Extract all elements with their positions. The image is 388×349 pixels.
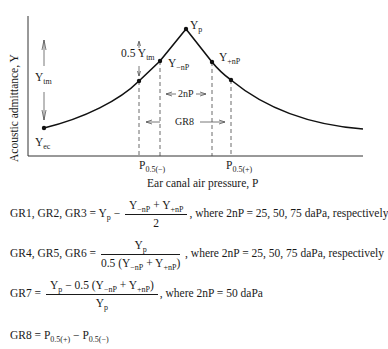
label-y-pos-np: Y+nP bbox=[219, 52, 240, 64]
label-ytm: Ytm bbox=[35, 72, 52, 84]
label-yec: Yec bbox=[35, 137, 50, 149]
label-p05-neg: P0.5(−) bbox=[139, 160, 165, 172]
curve-points bbox=[42, 27, 233, 130]
label-half-ytm: 0.5 Ytm bbox=[121, 48, 155, 60]
label-gr8: GR8 bbox=[175, 117, 194, 127]
equation-gr8: GR8 = P0.5(+) − P0.5(−) bbox=[10, 330, 109, 342]
x-axis-label: Ear canal air pressure, P bbox=[147, 178, 258, 190]
admittance-curve bbox=[44, 29, 363, 129]
y-axis-label: Acoustic admittance, Y bbox=[8, 53, 21, 162]
label-p05-pos: P0.5(+) bbox=[226, 160, 252, 172]
equation-gr7: GR7 = Yp − 0.5 (Y−nP + Y+nP)Yp, where 2n… bbox=[10, 280, 263, 309]
label-yp: Yp bbox=[190, 20, 202, 32]
equation-gr1-3: GR1, GR2, GR3 = Yp − Y−nP + Y+nP2, where… bbox=[10, 200, 388, 229]
equation-gr4-6: GR4, GR5, GR6 = Yp0.5 (Y−nP + Y+nP) , wh… bbox=[10, 240, 384, 269]
dashed-guides bbox=[139, 61, 231, 156]
label-y-neg-np: Y−nP bbox=[168, 58, 189, 70]
label-2np: 2nP bbox=[178, 89, 194, 99]
tympanogram-diagram: Acoustic admittance, Y bbox=[0, 0, 375, 200]
